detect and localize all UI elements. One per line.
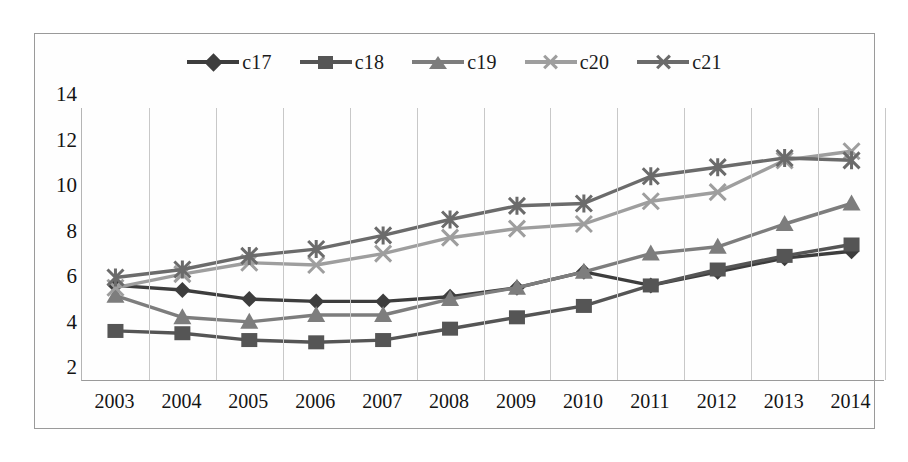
asterisk-marker-icon	[654, 53, 672, 71]
vertical-gridline	[149, 108, 150, 380]
x-axis-tick-label: 2008	[429, 391, 469, 411]
plot-wrapper: 1412108642 20032004200520062007200820092…	[81, 108, 884, 415]
legend-label-c18: c18	[355, 52, 384, 72]
y-axis-tick-label: 8	[37, 221, 77, 242]
vertical-gridline	[417, 108, 418, 380]
legend-item-c20[interactable]: c20	[525, 52, 609, 72]
legend-label-c19: c19	[467, 52, 496, 72]
legend-line-c17	[187, 60, 239, 64]
legend-swatch-c19	[412, 54, 464, 70]
x-axis-tick-label: 2004	[161, 391, 201, 411]
vertical-gridline	[684, 108, 685, 380]
vertical-gridline	[550, 108, 551, 380]
x-axis-tick-label: 2010	[563, 391, 603, 411]
legend-swatch-c21	[637, 54, 689, 70]
vertical-gridline	[818, 108, 819, 380]
y-axis-tick-label: 4	[37, 312, 77, 333]
x-axis-tick-label: 2003	[94, 391, 134, 411]
vertical-gridline	[484, 108, 485, 380]
vertical-gridline	[283, 108, 284, 380]
x-axis-tick-label: 2006	[295, 391, 335, 411]
legend-line-c19	[412, 60, 464, 64]
legend-item-c17[interactable]: c17	[187, 52, 271, 72]
legend-swatch-c20	[525, 54, 577, 70]
x-axis-tick-label: 2012	[697, 391, 737, 411]
vertical-gridline	[885, 108, 886, 380]
diamond-marker-icon	[204, 53, 222, 71]
legend-line-c18	[300, 60, 352, 64]
legend-swatch-c17	[187, 54, 239, 70]
x-axis-tick-label: 2011	[630, 391, 669, 411]
chart-legend: c17 c18 c19 c20	[35, 52, 874, 72]
chart-figure: c17 c18 c19 c20	[34, 33, 875, 429]
square-marker-icon	[318, 56, 333, 69]
vertical-gridline	[617, 108, 618, 380]
y-axis-tick-label: 10	[37, 175, 77, 196]
x-axis-tick-label: 2005	[228, 391, 268, 411]
vertical-gridline	[350, 108, 351, 380]
vertical-gridline	[216, 108, 217, 380]
y-axis-tick-label: 12	[37, 130, 77, 151]
legend-swatch-c18	[300, 54, 352, 70]
y-axis-tick-label: 6	[37, 266, 77, 287]
legend-line-c21	[637, 60, 689, 64]
legend-item-c21[interactable]: c21	[637, 52, 721, 72]
x-axis-tick-labels: 2003200420052006200720082009201020112012…	[81, 391, 884, 421]
legend-line-c20	[525, 60, 577, 64]
x-axis-tick-label: 2013	[764, 391, 804, 411]
legend-label-c21: c21	[692, 52, 721, 72]
plot-area	[81, 108, 884, 381]
legend-item-c18[interactable]: c18	[300, 52, 384, 72]
triangle-marker-icon	[429, 56, 447, 69]
vertical-gridline	[751, 108, 752, 380]
y-axis-tick-labels: 1412108642	[37, 94, 77, 394]
legend-label-c20: c20	[580, 52, 609, 72]
legend-label-c17: c17	[242, 52, 271, 72]
y-axis-tick-label: 2	[37, 357, 77, 378]
legend-item-c19[interactable]: c19	[412, 52, 496, 72]
y-axis-tick-label: 14	[37, 84, 77, 105]
x-cross-marker-icon	[542, 53, 560, 71]
x-axis-tick-label: 2009	[496, 391, 536, 411]
x-axis-tick-label: 2014	[831, 391, 871, 411]
x-axis-tick-label: 2007	[362, 391, 402, 411]
